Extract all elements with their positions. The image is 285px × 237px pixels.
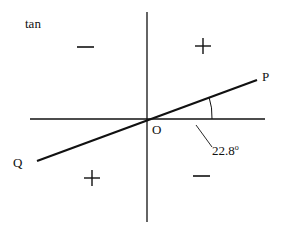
plus-sign-lower-left <box>84 170 100 186</box>
angle-value: 22.8 <box>212 143 235 158</box>
function-label: tan <box>25 17 41 30</box>
origin-label: O <box>152 123 161 136</box>
point-p-label: P <box>262 70 269 83</box>
angle-leader-line <box>196 125 212 147</box>
plus-sign-upper-right <box>195 38 211 54</box>
tangent-sign-diagram: tan P Q O 22.8o <box>0 0 285 237</box>
angle-label: 22.8o <box>212 144 239 157</box>
point-q-label: Q <box>13 156 22 169</box>
angle-arc <box>209 97 212 119</box>
degree-symbol: o <box>235 143 239 152</box>
diagram-graphics <box>0 0 285 237</box>
